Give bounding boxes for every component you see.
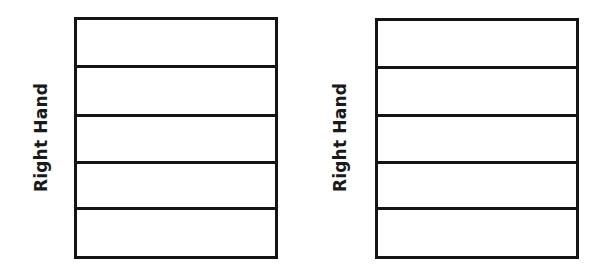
axis-label-left-text: Right Hand xyxy=(34,83,51,192)
table-row[interactable] xyxy=(77,68,275,116)
table-row[interactable] xyxy=(77,117,275,164)
table-row[interactable] xyxy=(378,117,576,164)
grid-table-left xyxy=(74,17,278,259)
table-row[interactable] xyxy=(378,21,576,69)
table-row[interactable] xyxy=(378,69,576,117)
figure-canvas: Right Hand Right Hand xyxy=(0,0,597,275)
axis-label-right-text: Right Hand xyxy=(333,83,350,192)
panel-left: Right Hand xyxy=(0,0,298,275)
axis-label-right: Right Hand xyxy=(321,0,361,275)
table-row[interactable] xyxy=(378,210,576,256)
panel-right: Right Hand xyxy=(299,0,597,275)
axis-label-left: Right Hand xyxy=(22,0,62,275)
grid-table-right xyxy=(375,18,579,259)
table-row[interactable] xyxy=(77,210,275,256)
table-row[interactable] xyxy=(378,164,576,210)
table-row[interactable] xyxy=(77,20,275,68)
table-row[interactable] xyxy=(77,164,275,210)
